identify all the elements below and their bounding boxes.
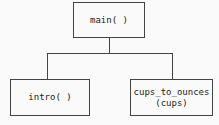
node-main: main( ) (73, 2, 145, 38)
connector-horizontal-bus (47, 53, 173, 54)
connector-main-to-cups-to-ounces (172, 53, 173, 79)
node-intro: intro( ) (10, 79, 90, 116)
node-main-label: main( ) (90, 15, 128, 26)
node-cups-to-ounces-label: cups_to_ounces (134, 87, 210, 98)
node-cups-to-ounces: cups_to_ounces (cups) (130, 79, 213, 116)
connector-main-to-intro (47, 53, 48, 79)
node-cups-to-ounces-parameter: (cups) (155, 98, 188, 109)
connector-main-trunk (109, 38, 110, 53)
node-intro-label: intro( ) (28, 92, 71, 103)
structure-chart-diagram: main( ) intro( ) cups_to_ounces (cups) (0, 0, 219, 125)
